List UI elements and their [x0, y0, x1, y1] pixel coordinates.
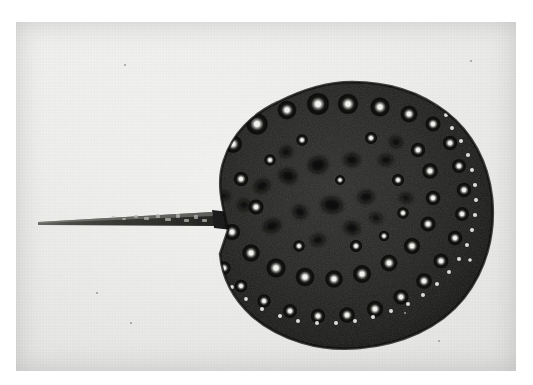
margin-tubercle [260, 85, 264, 89]
ocellus-center [280, 85, 283, 88]
ocellus-center [428, 169, 432, 173]
margin-tubercle [244, 297, 248, 301]
stingray-tail [38, 210, 232, 230]
ocellus-center [413, 86, 416, 89]
ocellus-center [269, 159, 272, 162]
margin-tubercle [370, 70, 374, 74]
margin-tubercle [313, 67, 317, 71]
margin-tubercle [334, 321, 338, 325]
margin-tubercle [278, 314, 282, 318]
margin-tubercle [457, 257, 461, 261]
ocellus-ring [331, 63, 350, 82]
ocellus-center [239, 177, 242, 180]
ocellus-center [254, 205, 258, 209]
screenshot-canvas [0, 0, 533, 385]
ocellus-center [373, 307, 377, 311]
ocellus-center [262, 299, 265, 302]
ocellus-center [407, 112, 411, 116]
ocellus-center [303, 275, 307, 279]
ocellus-center [301, 139, 304, 142]
ocellus-center [315, 101, 320, 106]
margin-tubercle [388, 75, 392, 79]
margin-tubercle [230, 107, 234, 111]
ocellus-center [448, 141, 451, 144]
margin-tubercle [435, 282, 439, 286]
ocellus-center [209, 147, 212, 150]
margin-tubercle [203, 152, 207, 156]
ocellus-center [346, 102, 351, 107]
margin-tubercle [421, 293, 425, 297]
margin-tubercle [260, 307, 264, 311]
margin-tubercle [244, 95, 248, 99]
ocellus-ring [274, 79, 288, 93]
margin-tubercle [315, 321, 319, 325]
margin-tubercle [406, 302, 410, 306]
margin-tubercle [470, 228, 474, 232]
ocellus-center [370, 137, 373, 140]
ocellus-center [285, 108, 289, 112]
margin-tubercle [474, 198, 478, 202]
margin-tubercle [459, 139, 463, 143]
ocellus-center [387, 261, 391, 265]
ocellus-center [422, 279, 426, 283]
ocellus-ring [250, 89, 263, 102]
ocellus-center [397, 179, 400, 182]
margin-tubercle [447, 270, 451, 274]
margin-tubercle [209, 256, 213, 260]
stingray-illustration [16, 22, 516, 371]
ocellus-center [235, 108, 238, 111]
ocellus-ring [206, 240, 221, 255]
ocellus-center [439, 259, 443, 263]
ocellus-ring [199, 165, 212, 178]
ocellus-center [338, 70, 342, 74]
ocellus-center [457, 164, 460, 167]
ocellus-center [240, 285, 243, 288]
margin-tubercle [296, 319, 300, 323]
margin-tubercle [389, 309, 393, 313]
ocellus-center [304, 76, 308, 80]
margin-tubercle [468, 258, 472, 262]
ocellus-ring [359, 66, 376, 83]
margin-tubercle [421, 91, 425, 95]
ocellus-ring [298, 70, 314, 86]
ocellus-center [230, 230, 234, 234]
ocellus-center [332, 277, 336, 281]
ocellus-center [355, 245, 358, 248]
ocellus-center [288, 309, 291, 312]
margin-tubercle [450, 126, 454, 130]
ocellus-center [399, 295, 403, 299]
ocellus-center [339, 179, 341, 181]
margin-tubercle [473, 213, 477, 217]
ocellus-center [431, 196, 434, 199]
ocellus-center [211, 245, 214, 248]
margin-tubercle [277, 77, 281, 81]
ocellus-center [345, 313, 349, 317]
margin-tubercle [470, 168, 474, 172]
photograph-plate [16, 22, 516, 371]
margin-tubercle [218, 121, 222, 125]
margin-tubercle [332, 66, 336, 70]
margin-tubercle [295, 71, 299, 75]
margin-tubercle [203, 240, 207, 244]
ocellus-center [460, 212, 463, 215]
margin-tubercle [473, 183, 477, 187]
margin-tubercle [465, 243, 469, 247]
ocellus-center [426, 222, 430, 226]
ocellus-center [256, 95, 259, 98]
margin-tubercle [405, 82, 409, 86]
ocellus-center [254, 121, 259, 126]
ocellus-center [378, 105, 382, 109]
ocellus-center [249, 251, 253, 255]
ocellus-center [298, 245, 301, 248]
margin-tubercle [353, 319, 357, 323]
ocellus-center [220, 127, 223, 130]
margin-tubercle [209, 136, 213, 140]
ocellus-center [316, 314, 319, 317]
margin-tubercle [200, 168, 204, 172]
ocellus-center [462, 188, 465, 191]
ocellus-center [383, 235, 385, 237]
ocellus-center [360, 272, 364, 276]
margin-tubercle [466, 153, 470, 157]
ocellus-center [402, 212, 405, 215]
ocellus-center [416, 148, 419, 151]
